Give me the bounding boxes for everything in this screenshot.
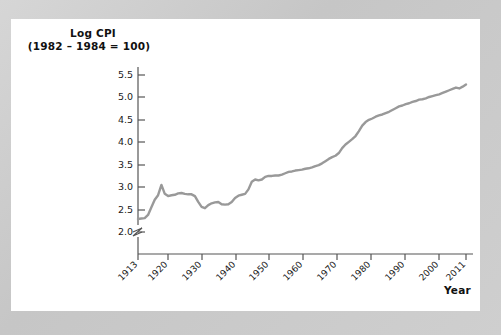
x-tick-label: 1920	[146, 259, 169, 282]
x-tick-label: 1913	[116, 259, 139, 282]
y-tick-label: 4.0	[118, 136, 133, 147]
x-axis-tick-labels: 1913 1920 1930 1940 1950 1960 1970 1980 …	[116, 259, 467, 282]
y-tick-label: 4.5	[118, 114, 133, 125]
y-axis-title-line1: Log CPI	[27, 27, 159, 39]
x-tick-label: 1990	[383, 259, 406, 282]
x-tick-label: 2011	[444, 259, 467, 282]
x-tick-label: 1970	[315, 259, 338, 282]
y-axis-title-line2: (1982 – 1984 = 100)	[19, 40, 159, 52]
x-tick-label: 1950	[247, 259, 270, 282]
y-tick-label: 2.5	[118, 204, 133, 215]
y-axis-tick-labels: 5.5 5.0 4.5 4.0 3.5 3.0 2.5 2.0	[118, 69, 133, 237]
x-tick-label: 1960	[281, 259, 304, 282]
y-tick-label: 3.0	[118, 181, 133, 192]
y-tick-label: 5.5	[118, 69, 133, 80]
x-tick-label: 1940	[214, 259, 237, 282]
x-tick-label: 1930	[180, 259, 203, 282]
y-tick-label: 2.0	[118, 226, 133, 237]
x-tick-label: 1980	[349, 259, 372, 282]
y-axis-ticks	[138, 75, 145, 232]
x-axis-title: Year	[444, 284, 471, 296]
cpi-line-series	[138, 84, 466, 219]
chart-plot-area: 5.5 5.0 4.5 4.0 3.5 3.0 2.5 2.0	[11, 19, 480, 311]
x-tick-label: 2000	[417, 259, 440, 282]
chart-panel: 5.5 5.0 4.5 4.0 3.5 3.0 2.5 2.0	[11, 19, 480, 311]
y-tick-label: 5.0	[118, 91, 133, 102]
figure-root: 5.5 5.0 4.5 4.0 3.5 3.0 2.5 2.0	[0, 0, 501, 335]
y-tick-label: 3.5	[118, 159, 133, 170]
x-axis-ticks	[138, 254, 466, 260]
